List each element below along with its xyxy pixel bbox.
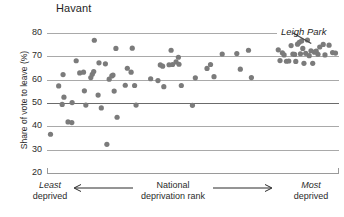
- data-point: [155, 78, 160, 83]
- data-point: [204, 66, 209, 71]
- data-point: [104, 142, 109, 147]
- data-point: [238, 67, 243, 72]
- data-point: [160, 64, 165, 69]
- data-point: [286, 58, 291, 63]
- data-point: [315, 52, 320, 57]
- data-point: [322, 52, 327, 57]
- left-direction-arrow-icon: [72, 183, 134, 193]
- data-point: [321, 42, 326, 47]
- data-point: [132, 83, 137, 88]
- data-point: [234, 51, 239, 56]
- annotation-leigh-park: Leigh Park: [281, 26, 326, 37]
- data-point: [96, 60, 101, 65]
- data-point: [310, 61, 315, 66]
- data-point: [113, 46, 118, 51]
- data-point: [82, 88, 87, 93]
- data-point: [307, 53, 312, 58]
- data-point: [99, 105, 104, 110]
- data-point: [298, 51, 303, 56]
- data-point: [220, 51, 225, 56]
- data-point: [282, 52, 287, 57]
- data-point: [133, 103, 138, 108]
- data-point: [333, 50, 338, 55]
- data-point: [60, 102, 65, 107]
- data-point: [148, 76, 153, 81]
- data-point: [289, 43, 294, 48]
- data-point: [176, 55, 181, 60]
- data-point: [249, 75, 254, 80]
- data-point: [300, 46, 305, 51]
- data-point: [60, 72, 65, 77]
- x-axis-least-deprived-line1: Least: [39, 180, 61, 190]
- data-point: [74, 58, 79, 63]
- data-point: [161, 84, 166, 89]
- x-axis-title: National deprivation rank: [133, 180, 213, 201]
- x-axis-title-line1: National: [156, 180, 189, 190]
- data-point: [129, 70, 134, 75]
- data-point: [125, 66, 130, 71]
- scatter-chart: Havant Share of vote to leave (%) 203040…: [0, 0, 344, 217]
- x-axis-most-deprived-line1: Most: [301, 180, 321, 190]
- x-axis-least-deprived-label: Least deprived: [22, 180, 78, 201]
- data-point: [176, 62, 181, 67]
- data-point: [277, 58, 282, 63]
- data-point: [190, 103, 195, 108]
- x-axis-most-deprived-label: Most deprived: [282, 180, 340, 201]
- data-point: [169, 48, 174, 53]
- data-point: [96, 92, 101, 97]
- data-point: [69, 120, 74, 125]
- data-point: [103, 61, 108, 66]
- x-axis-least-deprived-line2: deprived: [33, 191, 68, 201]
- data-point: [208, 62, 213, 67]
- data-point: [112, 89, 117, 94]
- data-point: [130, 46, 135, 51]
- data-point: [83, 103, 88, 108]
- data-point: [246, 48, 251, 53]
- right-direction-arrow-icon: [212, 183, 274, 193]
- data-point: [81, 70, 86, 75]
- x-axis-title-line2: deprivation rank: [141, 191, 205, 201]
- data-point: [293, 59, 298, 64]
- data-point: [211, 74, 216, 79]
- data-point: [292, 52, 297, 57]
- data-point: [92, 38, 97, 43]
- data-point: [56, 83, 61, 88]
- data-point: [61, 95, 66, 100]
- data-point: [48, 132, 53, 137]
- data-point: [91, 69, 96, 74]
- data-point: [179, 83, 184, 88]
- data-point: [193, 75, 198, 80]
- x-axis-most-deprived-line2: deprived: [294, 191, 329, 201]
- data-point: [326, 43, 331, 48]
- data-point: [123, 83, 128, 88]
- data-point: [110, 72, 115, 77]
- data-point: [70, 100, 75, 105]
- data-point: [301, 61, 306, 66]
- data-point: [114, 115, 119, 120]
